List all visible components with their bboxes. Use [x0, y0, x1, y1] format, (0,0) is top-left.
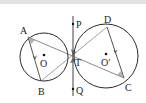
arrow-ab-icon	[34, 56, 37, 59]
label-o-prime: O′	[101, 57, 110, 68]
label-p: P	[76, 19, 82, 30]
circle-o	[20, 33, 68, 81]
point-p	[72, 23, 74, 25]
label-b: B	[38, 86, 45, 97]
label-t: T	[75, 57, 81, 68]
point-q	[72, 88, 74, 90]
point-o-prime	[105, 53, 108, 56]
label-q: Q	[76, 85, 84, 96]
diagram-canvas: A B C D T P Q O O′	[0, 0, 146, 103]
point-o	[43, 54, 46, 57]
circle-o-prime	[74, 24, 138, 88]
geometry-figure: A B C D T P Q O O′	[0, 0, 146, 103]
label-c: C	[125, 82, 132, 93]
label-a: A	[20, 25, 28, 36]
label-d: D	[104, 14, 111, 25]
label-o: O	[40, 58, 47, 69]
